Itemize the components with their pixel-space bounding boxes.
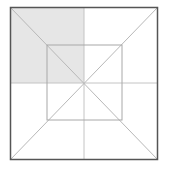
diagram-canvas	[0, 0, 171, 172]
